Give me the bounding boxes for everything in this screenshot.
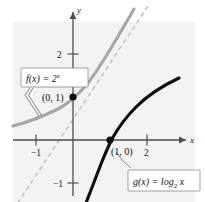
g-callout-prefix: g(x) = log — [133, 176, 174, 188]
point-dot-1-0 — [106, 136, 113, 143]
figure-container: f(x) = 2x g(x) = log2 x (0, 1) (1, 0) −1… — [0, 0, 205, 202]
y-tick-label-2: 2 — [57, 50, 62, 60]
label-point-0-1: (0, 1) — [42, 92, 64, 104]
svg-text:f(x) = 2x: f(x) = 2x — [26, 72, 61, 85]
graph-canvas: f(x) = 2x g(x) = log2 x (0, 1) (1, 0) −1… — [0, 0, 205, 202]
x-axis — [13, 135, 186, 146]
f-callout: f(x) = 2x — [21, 68, 88, 87]
y-axis — [68, 12, 79, 196]
x-tick-label-2: 2 — [144, 148, 149, 158]
f-callout-leader-lines — [25, 88, 42, 116]
y-axis-label: y — [76, 5, 81, 15]
x-axis-label: x — [189, 135, 194, 145]
f-callout-prefix: f(x) = 2 — [26, 73, 57, 85]
y-tick-label-neg1: −1 — [53, 179, 63, 189]
point-dot-0-1 — [69, 93, 76, 100]
g-callout: g(x) = log2 x — [128, 170, 200, 191]
label-point-1-0: (1, 0) — [111, 146, 133, 158]
x-tick-label-neg1: −1 — [31, 148, 41, 158]
g-callout-suffix: x — [177, 176, 185, 187]
